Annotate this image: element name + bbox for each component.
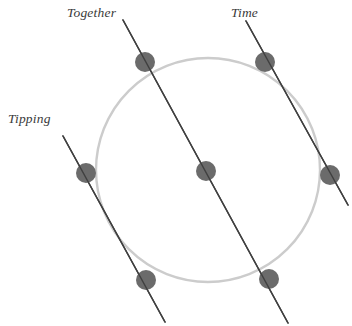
time-right-point: [320, 165, 340, 185]
together-top-point: [135, 52, 155, 72]
figure-canvas: Together Time Tipping: [0, 0, 352, 326]
diagram-svg: [0, 0, 352, 326]
axis-label-time: Time: [231, 6, 258, 20]
axis-label-together: Together: [67, 6, 116, 20]
data-point-group: [76, 52, 340, 290]
together-bottom-point: [259, 269, 279, 289]
time-axis-line: [246, 21, 348, 205]
tipping-axis-line: [63, 136, 165, 322]
axis-label-tipping: Tipping: [8, 112, 51, 126]
